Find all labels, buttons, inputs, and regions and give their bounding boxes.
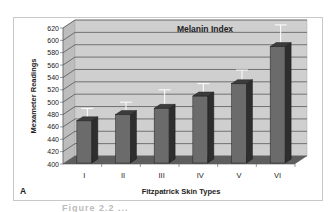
- bar-V: [232, 70, 253, 163]
- y-tick-label: 420: [47, 148, 59, 155]
- y-tick-label: 580: [47, 49, 59, 56]
- bar-IV: [193, 84, 214, 163]
- x-tick-label: V: [236, 171, 241, 180]
- panel-label: A: [20, 186, 26, 196]
- y-tick-label: 440: [47, 136, 59, 143]
- chart-title: Melanin Index: [177, 24, 233, 34]
- y-tick-label: 540: [47, 74, 59, 81]
- bar-chart: 400420440460480500520540560580600620 III…: [0, 0, 335, 212]
- y-tick-label: 480: [47, 111, 59, 118]
- y-axis: 400420440460480500520540560580600620: [47, 25, 63, 168]
- x-tick-label: III: [159, 171, 165, 180]
- figure-caption: Figure 2.2 ...: [62, 203, 129, 212]
- x-tick-label: I: [83, 171, 85, 180]
- bar-VI: [270, 25, 291, 163]
- y-tick-label: 500: [47, 99, 59, 106]
- y-tick-label: 560: [47, 62, 59, 69]
- y-axis-label: Mexameter Readings: [29, 58, 38, 133]
- y-tick-label: 460: [47, 123, 59, 130]
- x-axis-label: Fitzpatrick Skin Types: [142, 187, 221, 196]
- y-tick-label: 620: [47, 25, 59, 32]
- y-tick-label: 600: [47, 37, 59, 44]
- x-tick-label: VI: [274, 171, 281, 180]
- x-tick-label: IV: [197, 171, 204, 180]
- x-tick-label: II: [121, 171, 125, 180]
- x-axis: IIIIIIIVVVI: [63, 164, 295, 180]
- y-tick-label: 400: [47, 161, 59, 168]
- y-tick-label: 520: [47, 86, 59, 93]
